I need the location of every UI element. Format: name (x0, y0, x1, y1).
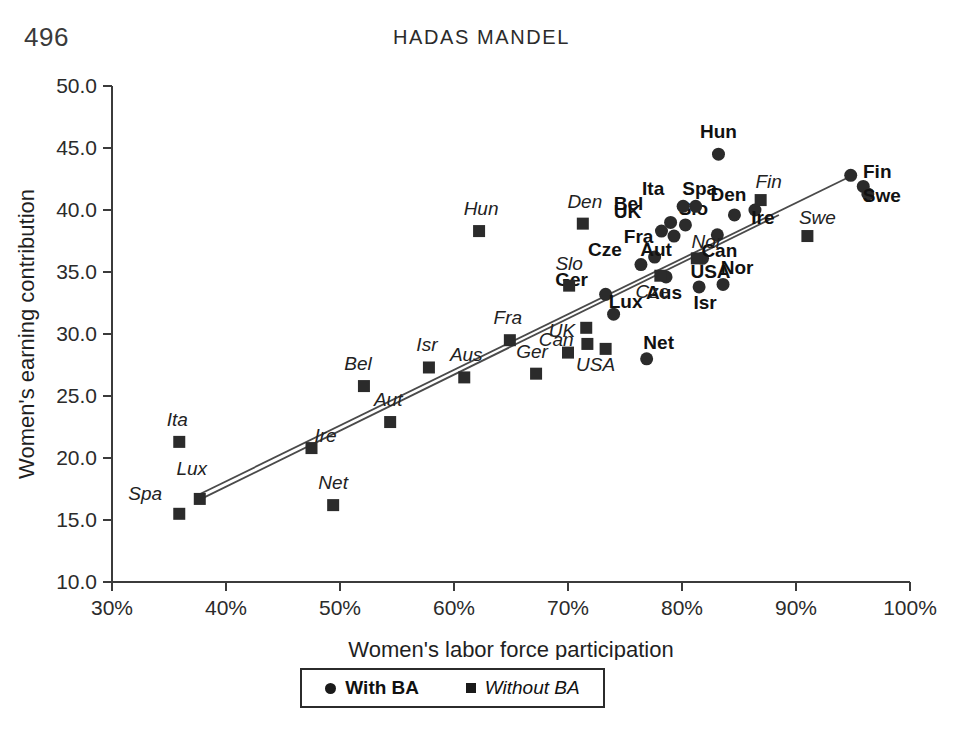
data-point-circle (728, 208, 741, 221)
data-point-label: Ire (314, 425, 336, 446)
data-point-label: Isr (416, 334, 438, 355)
data-point-square (473, 225, 485, 237)
y-axis-tick-label: 35.0 (56, 260, 97, 283)
data-point-label: Slo (555, 253, 582, 274)
data-point-label: Aut (640, 239, 672, 260)
data-point-label: Aut (373, 389, 403, 410)
data-point-square (801, 230, 813, 242)
data-point-square (691, 252, 703, 264)
data-point-label: Fin (755, 171, 781, 192)
x-axis-tick-label: 80% (661, 596, 703, 619)
data-point-label: Cze (588, 239, 622, 260)
data-point-square (458, 371, 470, 383)
x-axis-tick-label: 90% (775, 596, 817, 619)
data-point-label: Bel (614, 193, 644, 214)
x-axis-tick-label: 100% (883, 596, 937, 619)
chart-axes (112, 86, 910, 582)
data-point-label: Swe (863, 185, 901, 206)
y-axis-tick-label: 40.0 (56, 198, 97, 221)
data-point-label: Spa (128, 483, 162, 504)
data-point-square (581, 338, 593, 350)
data-point-square (577, 218, 589, 230)
data-point-square (755, 194, 767, 206)
data-point-label: USA (576, 354, 615, 375)
data-point-label: Hun (700, 121, 737, 142)
x-axis-title: Women's labor force participation (348, 637, 673, 660)
data-point-label: Net (318, 472, 348, 493)
chart-svg: 10.015.020.025.030.035.040.045.050.030%4… (0, 0, 963, 660)
data-point-circle (844, 169, 857, 182)
data-point-circle (689, 200, 702, 213)
data-point-circle (677, 200, 690, 213)
data-point-circle (640, 352, 653, 365)
data-point-square (173, 508, 185, 520)
y-axis-tick-label: 10.0 (56, 570, 97, 593)
y-axis-tick-label: 50.0 (56, 74, 97, 97)
x-axis-tick-label: 60% (433, 596, 475, 619)
data-point-label: Fra (494, 307, 523, 328)
y-axis-tick-label: 25.0 (56, 384, 97, 407)
data-point-label: Den (567, 191, 602, 212)
data-point-label: Net (643, 332, 674, 353)
y-axis-tick-label: 20.0 (56, 446, 97, 469)
legend-label-without-ba: Without BA (485, 677, 580, 699)
y-axis-title: Women's earning contribution (14, 189, 39, 479)
data-point-label: Nor (721, 257, 754, 278)
data-point-square (194, 493, 206, 505)
data-point-circle (679, 218, 692, 231)
data-point-square (384, 416, 396, 428)
data-point-label: Nor (692, 231, 723, 252)
data-point-square (504, 334, 516, 346)
data-point-square (530, 368, 542, 380)
chart-legend: With BA Without BA (300, 668, 605, 708)
x-axis-tick-label: 50% (319, 596, 361, 619)
legend-item-without-ba[interactable]: Without BA (466, 677, 580, 699)
data-point-square (358, 380, 370, 392)
data-point-label: Ita (167, 409, 188, 430)
data-point-label: Den (710, 184, 746, 205)
data-point-square (580, 322, 592, 334)
legend-item-with-ba[interactable]: With BA (325, 677, 419, 699)
scatter-chart-figure: 10.015.020.025.030.035.040.045.050.030%4… (0, 0, 963, 732)
x-axis-tick-label: 40% (205, 596, 247, 619)
data-point-label: Aus (449, 344, 483, 365)
data-point-square (327, 499, 339, 511)
y-axis-tick-label: 15.0 (56, 508, 97, 531)
square-marker-icon (466, 683, 476, 693)
data-point-circle (717, 278, 730, 291)
x-axis-tick-label: 70% (547, 596, 589, 619)
data-point-label: Swe (799, 207, 836, 228)
data-point-label: Ita (642, 178, 665, 199)
data-point-label: Lux (176, 458, 208, 479)
data-point-label: Fin (863, 161, 892, 182)
data-point-label: Cze (635, 281, 669, 302)
circle-marker-icon (325, 683, 336, 694)
data-point-label: Hun (464, 198, 499, 219)
x-axis-tick-label: 30% (91, 596, 133, 619)
data-point-label: Isr (693, 292, 717, 313)
data-point-label: Ire (751, 207, 774, 228)
data-point-label: Can (539, 329, 574, 350)
data-point-circle (712, 148, 725, 161)
data-point-square (173, 436, 185, 448)
data-point-circle (664, 216, 677, 229)
y-axis-tick-label: 45.0 (56, 136, 97, 159)
legend-label-with-ba: With BA (345, 677, 419, 699)
data-point-square (423, 361, 435, 373)
y-axis-tick-label: 30.0 (56, 322, 97, 345)
data-point-square (563, 280, 575, 292)
data-point-label: Bel (344, 353, 372, 374)
